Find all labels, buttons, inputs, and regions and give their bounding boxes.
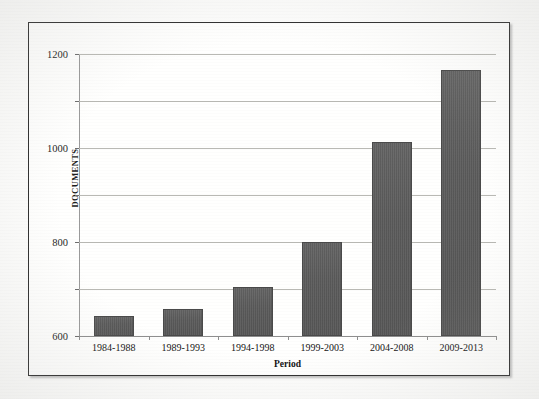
y-tick-label-1000: 1000 bbox=[47, 143, 68, 154]
x-tick-mark-0 bbox=[79, 336, 80, 340]
x-tick-mark-1 bbox=[149, 336, 150, 340]
bar-1984-1988[interactable] bbox=[94, 316, 134, 336]
bar-chart: DOCUMENTS 020040060080010001200 1984-198… bbox=[29, 23, 511, 377]
x-tick-label-2004-2008: 2004-2008 bbox=[370, 342, 413, 353]
y-tick-mark-200: 200 bbox=[75, 289, 79, 290]
figure-frame: DOCUMENTS 020040060080010001200 1984-198… bbox=[28, 22, 510, 376]
x-tick-mark-3 bbox=[288, 336, 289, 340]
gridline-1200 bbox=[79, 54, 496, 55]
x-tick-mark-2 bbox=[218, 336, 219, 340]
y-tick-mark-1000: 1000 bbox=[75, 101, 79, 102]
plot-area: 020040060080010001200 bbox=[79, 54, 496, 336]
y-tick-label-1200: 1200 bbox=[47, 49, 68, 60]
x-tick-mark-4 bbox=[357, 336, 358, 340]
gridline-600 bbox=[79, 195, 496, 196]
bar-2004-2008[interactable] bbox=[372, 142, 412, 336]
bar-1999-2003[interactable] bbox=[302, 242, 342, 336]
gridline-1000 bbox=[79, 101, 496, 102]
y-tick-label-800: 800 bbox=[52, 237, 68, 248]
x-tick-mark-end bbox=[496, 336, 497, 340]
y-tick-label-600: 600 bbox=[52, 331, 68, 342]
x-axis-title: Period bbox=[79, 359, 496, 369]
x-tick-label-1984-1988: 1984-1988 bbox=[92, 342, 135, 353]
figure-page: DOCUMENTS 020040060080010001200 1984-198… bbox=[0, 0, 539, 399]
y-tick-mark-800: 800 bbox=[75, 148, 79, 149]
x-tick-label-1994-1998: 1994-1998 bbox=[231, 342, 274, 353]
y-tick-mark-600: 600 bbox=[75, 195, 79, 196]
y-tick-mark-400: 400 bbox=[75, 242, 79, 243]
y-tick-mark-1200: 1200 bbox=[75, 54, 79, 55]
x-tick-label-1989-1993: 1989-1993 bbox=[162, 342, 205, 353]
bar-2009-2013[interactable] bbox=[441, 70, 481, 336]
gridline-400 bbox=[79, 242, 496, 243]
bar-1989-1993[interactable] bbox=[163, 309, 203, 336]
gridline-200 bbox=[79, 289, 496, 290]
x-tick-label-1999-2003: 1999-2003 bbox=[301, 342, 344, 353]
x-tick-label-2009-2013: 2009-2013 bbox=[440, 342, 483, 353]
gridline-800 bbox=[79, 148, 496, 149]
x-tick-mark-5 bbox=[427, 336, 428, 340]
bar-1994-1998[interactable] bbox=[233, 287, 273, 336]
